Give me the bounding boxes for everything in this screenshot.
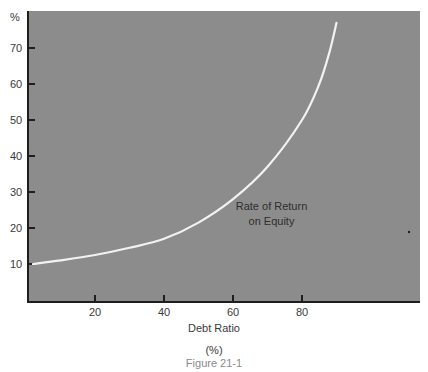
stray-dot (408, 231, 410, 233)
x-tick-label: 60 (227, 306, 239, 318)
y-tick-label: 10 (10, 258, 22, 270)
y-tick-label: 30 (10, 186, 22, 198)
y-tick-label: 40 (10, 150, 22, 162)
y-tick-label: 20 (10, 222, 22, 234)
x-tick-label: 80 (296, 306, 308, 318)
x-tick-label: 40 (158, 306, 170, 318)
curve-annotation-line2: on Equity (249, 215, 295, 227)
chart-svg: 10203040506070 20406080 % Rate of Return… (0, 0, 428, 372)
x-tick-label: 20 (89, 306, 101, 318)
figure-caption: Figure 21-1 (0, 357, 428, 369)
y-axis-unit-label: % (10, 11, 20, 23)
y-tick-label: 60 (10, 78, 22, 90)
x-axis-unit-label: (%) (0, 344, 428, 356)
x-axis-label: Debt Ratio (0, 322, 428, 334)
y-tick-label: 70 (10, 42, 22, 54)
plot-area (28, 11, 420, 302)
y-tick-label: 50 (10, 114, 22, 126)
curve-annotation-line1: Rate of Return (236, 200, 308, 212)
